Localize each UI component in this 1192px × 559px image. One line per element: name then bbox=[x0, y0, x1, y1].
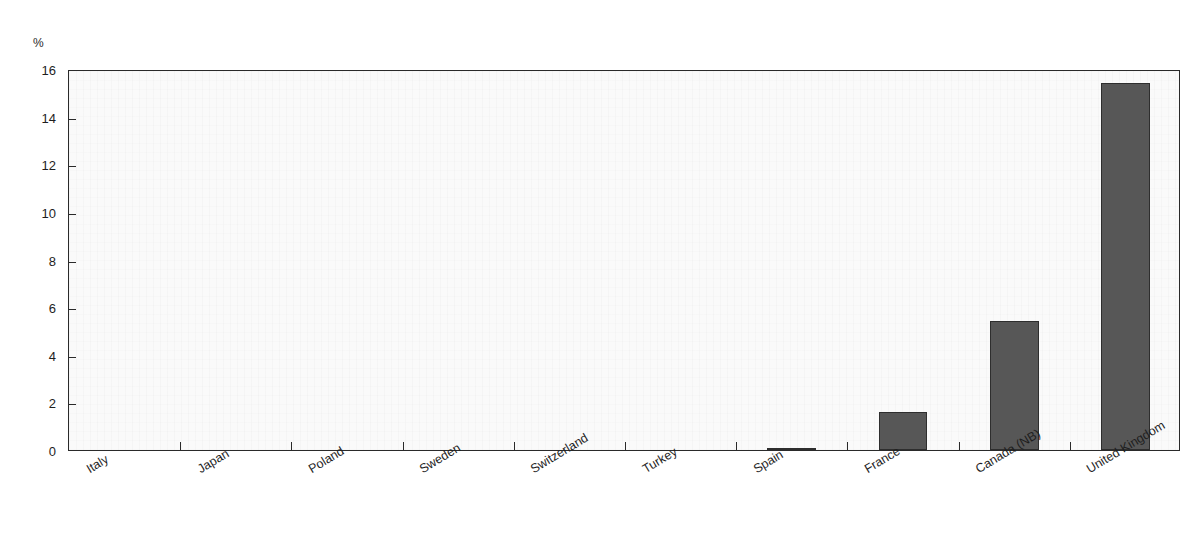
y-axis-unit-label: % bbox=[33, 36, 44, 50]
plot-area bbox=[68, 70, 1180, 451]
x-axis-tick-mark bbox=[847, 442, 848, 450]
y-axis-tick-mark bbox=[69, 357, 76, 358]
y-axis-tick-label: 2 bbox=[10, 396, 56, 411]
x-axis-category-label: Spain bbox=[751, 448, 786, 476]
bar bbox=[1101, 83, 1150, 450]
x-axis-tick-mark bbox=[736, 442, 737, 450]
y-axis-tick-label: 6 bbox=[10, 301, 56, 316]
y-axis-tick-label: 4 bbox=[10, 348, 56, 363]
x-axis-category-label: Italy bbox=[84, 452, 111, 476]
y-axis-tick-label: 0 bbox=[10, 444, 56, 459]
y-axis-tick-mark bbox=[69, 404, 76, 405]
x-axis-tick-mark bbox=[625, 442, 626, 450]
x-axis-tick-mark bbox=[180, 442, 181, 450]
bar bbox=[879, 412, 928, 450]
y-axis-tick-label: 14 bbox=[10, 110, 56, 125]
y-axis-tick-mark bbox=[69, 262, 76, 263]
y-axis-tick-label: 12 bbox=[10, 158, 56, 173]
x-axis-tick-mark bbox=[1070, 442, 1071, 450]
y-axis-tick-label: 16 bbox=[10, 63, 56, 78]
y-axis-tick-label: 8 bbox=[10, 253, 56, 268]
x-axis-tick-mark bbox=[403, 442, 404, 450]
x-axis-tick-mark bbox=[514, 442, 515, 450]
bar-chart-figure: % 0246810121416 ItalyJapanPolandSwedenSw… bbox=[0, 0, 1192, 559]
y-axis-tick-mark bbox=[69, 119, 76, 120]
y-axis-tick-mark bbox=[69, 166, 76, 167]
y-axis-tick-label: 10 bbox=[10, 205, 56, 220]
y-axis-tick-mark bbox=[69, 214, 76, 215]
x-axis-tick-mark bbox=[959, 442, 960, 450]
x-axis-tick-mark bbox=[291, 442, 292, 450]
y-axis-tick-mark bbox=[69, 309, 76, 310]
page-title bbox=[0, 0, 1192, 3]
